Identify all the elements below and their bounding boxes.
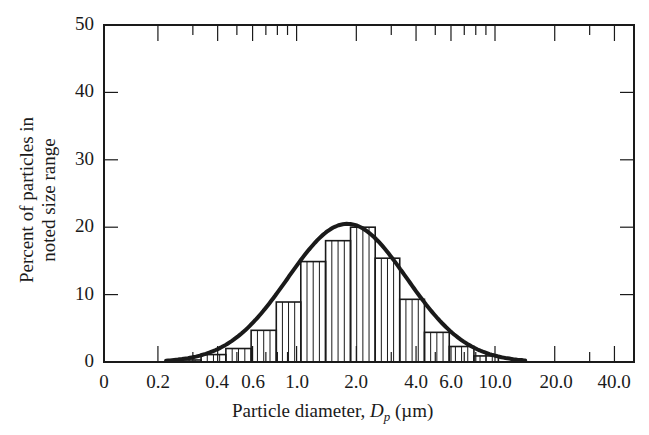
plot-area xyxy=(0,0,649,435)
x-axis-label-symbol: D xyxy=(370,400,384,421)
y-tick-label: 40 xyxy=(54,80,94,102)
y-axis-label-line-1: Percent of particles in xyxy=(16,70,38,330)
x-tick-label: 40.0 xyxy=(584,371,644,393)
x-axis-label-text: Particle diameter, xyxy=(232,400,370,421)
y-tick-label: 20 xyxy=(54,215,94,237)
y-tick-label: 10 xyxy=(54,283,94,305)
y-tick-label: 50 xyxy=(54,13,94,35)
x-tick-label: 20.0 xyxy=(526,371,586,393)
x-tick-label: 10.0 xyxy=(465,371,525,393)
x-axis-label-unit: (µm) xyxy=(390,400,433,421)
particle-size-distribution-chart: Percent of particles in noted size range… xyxy=(0,0,649,435)
y-tick-label: 0 xyxy=(54,350,94,372)
y-tick-label: 30 xyxy=(54,148,94,170)
x-axis-label: Particle diameter, Dp (µm) xyxy=(232,400,532,425)
x-tick-label: 1.0 xyxy=(267,371,327,393)
fitted-curve xyxy=(166,224,525,361)
x-tick-label: 0.2 xyxy=(128,371,188,393)
x-tick-label: 2.0 xyxy=(326,371,386,393)
x-tick-label: 0 xyxy=(74,371,134,393)
